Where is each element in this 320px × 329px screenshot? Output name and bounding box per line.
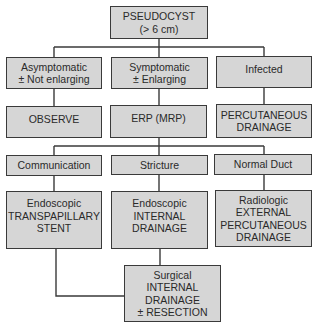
node-label: INTERNAL — [134, 210, 186, 223]
node-observe: OBSERVE — [6, 106, 102, 138]
node-radiologic-drainage: Radiologic EXTERNAL PERCUTANEOUS DRAINAG… — [215, 190, 312, 247]
node-percutaneous-drainage: PERCUTANEOUS DRAINAGE — [216, 104, 312, 138]
node-symptomatic: Symptomatic ± Enlarging — [111, 57, 208, 89]
node-label: Endoscopic — [27, 197, 81, 210]
node-erp: ERP (MRP) — [110, 105, 207, 138]
node-label: Communication — [18, 159, 91, 172]
node-pseudocyst: PSEUDOCYST (> 6 cm) — [110, 6, 208, 39]
node-label: Symptomatic — [129, 61, 190, 74]
node-label: Asymptomatic — [21, 61, 87, 74]
node-label: ± RESECTION — [138, 306, 208, 319]
node-label: (> 6 cm) — [140, 23, 179, 36]
node-communication: Communication — [6, 155, 102, 176]
node-asymptomatic: Asymptomatic ± Not enlarging — [6, 57, 102, 89]
node-normal-duct: Normal Duct — [214, 154, 312, 175]
node-label: Normal Duct — [234, 158, 292, 171]
node-label: DRAINAGE — [236, 231, 291, 244]
node-label: Endoscopic — [132, 197, 186, 210]
node-label: EXTERNAL — [236, 206, 291, 219]
node-label: Infected — [245, 63, 282, 76]
node-surgical-drainage: Surgical INTERNAL DRAINAGE ± RESECTION — [124, 265, 221, 322]
node-infected: Infected — [216, 56, 312, 88]
node-label: DRAINAGE — [237, 121, 292, 134]
node-label: Stricture — [140, 159, 179, 172]
node-internal-drainage: Endoscopic INTERNAL DRAINAGE — [111, 191, 208, 249]
node-label: OBSERVE — [29, 113, 80, 126]
node-label: PERCUTANEOUS — [221, 109, 308, 122]
node-label: DRAINAGE — [145, 294, 200, 307]
node-label: Radiologic — [239, 194, 288, 207]
node-label: TRANSPAPILLARY — [8, 210, 100, 223]
node-label: DRAINAGE — [132, 222, 187, 235]
node-label: PSEUDOCYST — [123, 10, 195, 23]
node-label: ERP (MRP) — [131, 112, 186, 125]
node-label: PERCUTANEOUS — [220, 219, 307, 232]
node-transpapillary-stent: Endoscopic TRANSPAPILLARY STENT — [6, 191, 102, 249]
node-label: INTERNAL — [147, 281, 199, 294]
node-label: ± Enlarging — [133, 73, 186, 86]
node-label: ± Not enlarging — [18, 73, 89, 86]
node-label: STENT — [37, 222, 71, 235]
node-stricture: Stricture — [111, 155, 208, 175]
node-label: Surgical — [154, 269, 192, 282]
